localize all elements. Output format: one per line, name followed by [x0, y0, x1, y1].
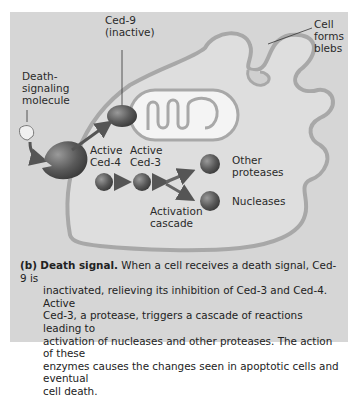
ced3-line1: Active	[130, 144, 162, 156]
other-proteases	[200, 154, 220, 174]
figure-caption: (b) Death signal. When a cell receives a…	[20, 259, 342, 398]
proteases-line1: Other	[232, 154, 284, 166]
caption-line: activation of nucleases and other protea…	[20, 335, 342, 360]
active-ced4	[95, 173, 113, 191]
death-line3: molecule	[22, 94, 70, 106]
ced9-line2: (inactive)	[105, 26, 155, 38]
caption-line: Ced-3, a protease, triggers a cascade of…	[20, 309, 342, 334]
ced3-line2: Ced-3	[130, 156, 162, 168]
label-ced9: Ced-9 (inactive)	[105, 14, 155, 38]
caption-line: inactivated, relieving its inhibition of…	[20, 284, 342, 309]
label-death-molecule: Death- signaling molecule	[22, 70, 70, 106]
active-ced3	[133, 173, 151, 191]
cascade-line1: Activation	[150, 205, 203, 217]
blebs-line2: forms	[314, 30, 344, 42]
caption-tag: (b)	[20, 259, 37, 271]
death-signaling-molecule	[19, 126, 33, 140]
cascade-line2: cascade	[150, 217, 203, 229]
caption-first-line: (b) Death signal. When a cell receives a…	[20, 259, 342, 284]
label-nucleases: Nucleases	[232, 195, 286, 207]
label-cell-blebs: Cell forms blebs	[314, 18, 344, 54]
label-activation-cascade: Activation cascade	[150, 205, 203, 229]
ced9-protein	[107, 105, 137, 127]
label-active-ced4: Active Ced-4	[90, 144, 122, 168]
nucleases	[200, 191, 220, 211]
death-line2: signaling	[22, 82, 70, 94]
label-other-proteases: Other proteases	[232, 154, 284, 178]
death-line1: Death-	[22, 70, 70, 82]
label-active-ced3: Active Ced-3	[130, 144, 162, 168]
proteases-line2: proteases	[232, 166, 284, 178]
caption-line: enzymes causes the changes seen in apopt…	[20, 360, 342, 385]
blebs-line3: blebs	[314, 42, 344, 54]
mitochondrion-icon	[130, 90, 238, 140]
caption-line: cell death.	[20, 385, 342, 398]
ced4-line2: Ced-4	[90, 156, 122, 168]
ced9-line1: Ced-9	[105, 14, 155, 26]
caption-title: Death signal.	[40, 259, 118, 271]
ced4-line1: Active	[90, 144, 122, 156]
blebs-line1: Cell	[314, 18, 344, 30]
ced4-receptor	[42, 141, 87, 179]
